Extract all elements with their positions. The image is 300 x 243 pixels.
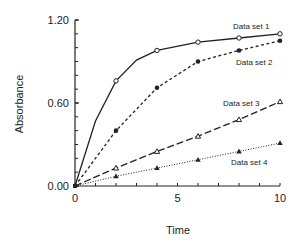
open-circle-marker bbox=[114, 79, 118, 83]
open-triangle-marker bbox=[154, 149, 159, 154]
filled-circle-marker bbox=[237, 48, 242, 53]
open-triangle-marker bbox=[236, 117, 241, 122]
open-triangle-marker bbox=[277, 99, 282, 104]
x-tick-label: 0 bbox=[72, 192, 78, 204]
line-chart-svg: 05100.000.601.20 Data set 1Data set 2Dat… bbox=[0, 0, 300, 243]
filled-circle-marker bbox=[155, 85, 160, 90]
y-tick-label: 1.20 bbox=[48, 14, 69, 26]
filled-triangle-marker bbox=[277, 140, 282, 145]
series-label: Data set 3 bbox=[223, 99, 260, 108]
open-circle-marker bbox=[237, 36, 241, 40]
filled-triangle-marker bbox=[113, 174, 118, 179]
open-triangle-marker bbox=[195, 134, 200, 139]
x-tick-label: 10 bbox=[274, 192, 286, 204]
x-axis-title: Time bbox=[166, 224, 190, 236]
series-label: Data set 4 bbox=[231, 158, 268, 167]
chart: 05100.000.601.20 Data set 1Data set 2Dat… bbox=[0, 0, 300, 243]
series-layer: Data set 1Data set 2Data set 3Data set 4 bbox=[73, 22, 283, 188]
filled-circle-marker bbox=[196, 59, 201, 64]
y-axis-title: Absorbance bbox=[13, 75, 25, 134]
origin-marker bbox=[73, 184, 77, 188]
filled-circle-marker bbox=[278, 38, 283, 43]
y-tick-label: 0.00 bbox=[48, 180, 69, 192]
open-triangle-marker bbox=[113, 165, 118, 170]
filled-circle-marker bbox=[114, 128, 119, 133]
y-tick-label: 0.60 bbox=[48, 97, 69, 109]
series-label: Data set 1 bbox=[233, 22, 270, 31]
open-circle-marker bbox=[278, 32, 282, 36]
series-4: Data set 4 bbox=[75, 140, 283, 186]
open-circle-marker bbox=[155, 48, 159, 52]
series-label: Data set 2 bbox=[236, 58, 273, 67]
open-circle-marker bbox=[196, 40, 200, 44]
series-3: Data set 3 bbox=[75, 99, 283, 186]
x-tick-label: 5 bbox=[174, 192, 180, 204]
